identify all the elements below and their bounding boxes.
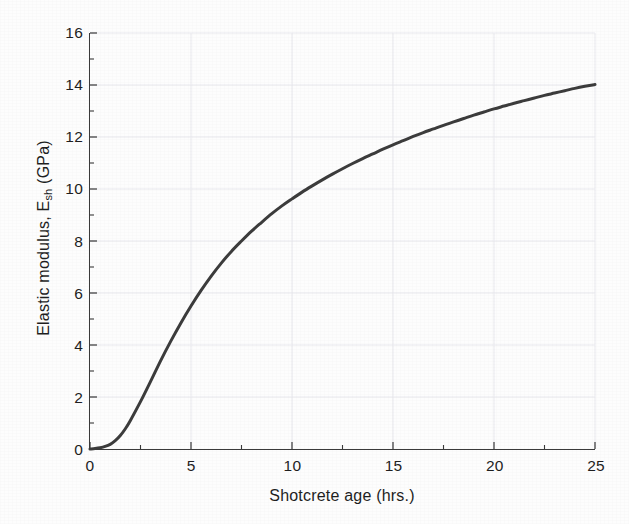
x-tick-label: 15 — [385, 458, 403, 474]
y-tick-label: 0 — [74, 442, 83, 458]
plot-area: 0246810121416 0510152025 — [89, 33, 595, 450]
x-axis-title: Shotcrete age (hrs.) — [89, 487, 595, 505]
y-tick-label: 6 — [74, 286, 83, 302]
y-tick-label: 2 — [74, 390, 83, 406]
x-tick-label: 25 — [587, 458, 605, 474]
x-tick-label: 10 — [284, 458, 302, 474]
data-series-line — [90, 33, 595, 449]
y-axis-title-subscript: sh — [42, 189, 54, 201]
y-axis-title: Elastic modulus, Esh (GPa) — [35, 28, 53, 448]
y-tick-label: 16 — [65, 25, 83, 41]
y-axis-title-main: Elastic modulus, E — [35, 201, 52, 336]
y-tick-label: 4 — [74, 338, 83, 354]
y-tick-label: 10 — [65, 182, 83, 198]
x-tick-label: 20 — [486, 458, 504, 474]
y-tick-label: 12 — [65, 130, 83, 146]
figure-container: 0246810121416 0510152025 Shotcrete age (… — [0, 0, 629, 524]
x-tick-label: 0 — [86, 458, 95, 474]
y-tick-label: 8 — [74, 234, 83, 250]
y-axis-title-unit: (GPa) — [35, 140, 52, 188]
y-tick-label: 14 — [65, 77, 83, 93]
x-tick-label: 5 — [187, 458, 196, 474]
